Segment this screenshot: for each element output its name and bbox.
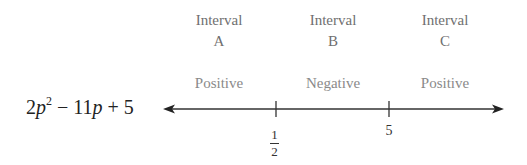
number-line-axis — [163, 101, 504, 117]
tick-half-numerator: 1 — [271, 128, 278, 142]
tick-label-half: 1 2 — [270, 128, 279, 159]
tick-label-five: 5 — [379, 123, 399, 139]
tick-half-denominator: 2 — [271, 145, 278, 159]
number-line — [0, 0, 527, 165]
